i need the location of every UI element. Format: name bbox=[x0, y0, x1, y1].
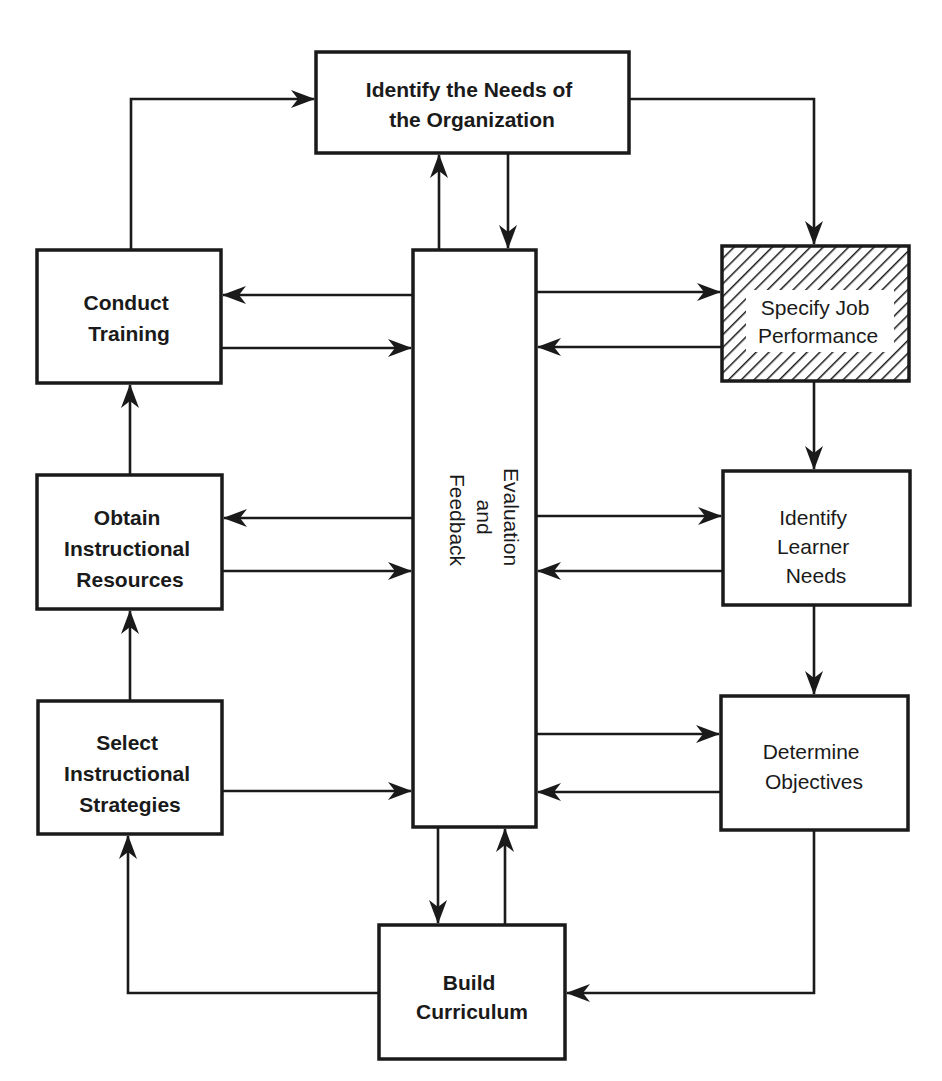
node-determine-objectives: Determine Objectives bbox=[721, 696, 908, 830]
node-select-strategies: Select Instructional Strategies bbox=[38, 701, 222, 834]
node-identify-learner-needs: Identify Learner Needs bbox=[723, 471, 910, 605]
edge-conduct-to-org bbox=[131, 99, 314, 250]
edge-org-to-specify bbox=[630, 99, 814, 244]
node-label: Identify Learner Needs bbox=[777, 506, 855, 587]
node-evaluation-feedback: Evaluation and Feedback bbox=[413, 250, 536, 827]
node-conduct-training: Conduct Training bbox=[37, 250, 221, 383]
edge-build-to-select bbox=[128, 836, 379, 993]
instructional-design-diagram: Identify the Needs of the Organization C… bbox=[0, 0, 942, 1081]
node-build-curriculum: Build Curriculum bbox=[379, 925, 565, 1059]
node-identify-org: Identify the Needs of the Organization bbox=[316, 52, 629, 153]
edge-objectives-to-build bbox=[567, 830, 814, 993]
node-obtain-resources: Obtain Instructional Resources bbox=[37, 475, 222, 609]
node-specify-job-performance: Specify Job Performance bbox=[722, 246, 909, 381]
